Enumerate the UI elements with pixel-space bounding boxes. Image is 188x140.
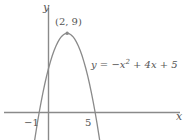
vertex-coordinate-label: (2, 9) xyxy=(55,17,82,27)
vertex-point-marker xyxy=(65,32,68,35)
equation-rhs: + 4x + 5 xyxy=(130,59,178,70)
y-axis-label: y xyxy=(43,2,49,13)
x-tick-label-neg1: −1 xyxy=(24,118,39,128)
x-tick-label-5: 5 xyxy=(85,118,91,128)
equation-lhs: y = −x xyxy=(91,59,125,70)
x-axis-label: x xyxy=(176,111,182,122)
parabola-figure: y x (2, 9) y = −x2 + 4x + 5 −1 5 xyxy=(0,0,188,140)
equation-label: y = −x2 + 4x + 5 xyxy=(91,60,178,70)
